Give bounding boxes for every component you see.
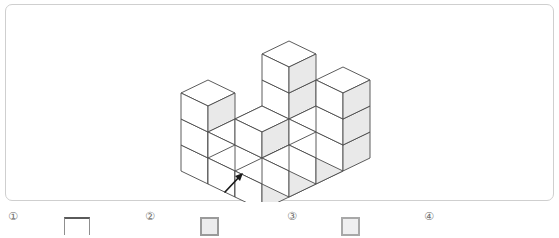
answer-option-4[interactable]: ④: [422, 203, 559, 238]
isometric-cube-stack-drawing: [6, 5, 555, 202]
answer-option-1-swatch: [64, 217, 90, 235]
cube-group: [181, 41, 370, 202]
answer-option-3-label: ③: [287, 211, 297, 223]
answer-option-3-swatch: [341, 217, 360, 236]
isometric-figure-stage: [6, 5, 555, 202]
cube-col-3-2: [316, 67, 370, 171]
answer-option-2-label: ②: [145, 211, 155, 223]
answer-option-4-label: ④: [424, 211, 434, 223]
answer-options-row: ① ② ③ ④: [0, 203, 559, 238]
page-root: ① ② ③ ④: [0, 0, 559, 238]
answer-option-2[interactable]: ②: [140, 203, 285, 238]
answer-option-1-label: ①: [8, 211, 18, 223]
figure-panel: [5, 4, 554, 201]
answer-option-3[interactable]: ③: [285, 203, 422, 238]
answer-option-2-swatch: [200, 217, 219, 236]
answer-option-1[interactable]: ①: [0, 203, 140, 238]
